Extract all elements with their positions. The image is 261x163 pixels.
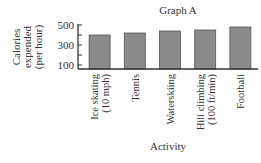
x-tick-label: Football <box>235 74 246 109</box>
x-tick-label: (10 mph) <box>100 74 112 113</box>
bar-chart: Graph ACaloriesexpended(per hour)1003005… <box>0 0 261 163</box>
bar <box>160 31 181 69</box>
chart-title: Graph A <box>159 4 197 16</box>
x-tick-label: Ice skating <box>89 73 100 120</box>
y-tick-label: 300 <box>58 39 75 51</box>
x-tick-label: (100 ft/min) <box>206 74 218 126</box>
bar <box>89 35 110 69</box>
y-axis-label: (per hour) <box>32 25 45 70</box>
x-tick-label: Hill climbing <box>195 73 206 130</box>
x-axis-label: Activity <box>150 140 187 152</box>
bar <box>230 27 251 69</box>
bar <box>124 33 145 69</box>
y-tick-label: 500 <box>58 19 75 31</box>
y-tick-label: 100 <box>58 59 75 71</box>
x-tick-label: Waterskiing <box>165 73 176 124</box>
bar <box>195 30 216 69</box>
x-tick-label: Tennis <box>130 74 141 102</box>
